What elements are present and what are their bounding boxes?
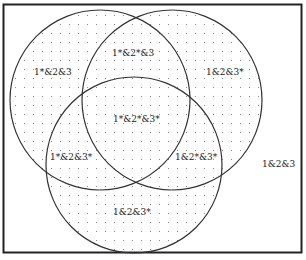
- set-3-fill: [46, 77, 222, 253]
- region-label-outside: 1&2&3: [262, 159, 295, 169]
- region-label-only-1: 1*&2&3: [34, 67, 72, 77]
- venn-diagram: 1*&2&31*&2*&31&2&3*1*&2*&3*1*&2&3*1&2*&3…: [0, 0, 306, 260]
- region-label-2-and-3: 1&2*&3*: [175, 152, 218, 162]
- region-label-1-and-3: 1*&2&3*: [50, 152, 93, 162]
- region-label-1-and-2: 1*&2*&3: [112, 48, 154, 58]
- region-label-all-three: 1*&2*&3*: [113, 114, 160, 124]
- region-label-only-3: 1&2&3*: [113, 207, 151, 217]
- region-label-only-2: 1&2&3*: [206, 67, 244, 77]
